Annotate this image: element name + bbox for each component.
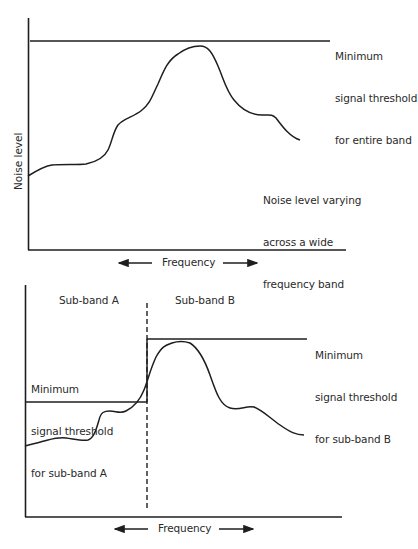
top-y-axis-label: Noise level — [12, 133, 24, 190]
bottom-x-axis-label: Frequency — [158, 521, 211, 535]
label-line: for sub-band A — [31, 466, 113, 480]
label-line: signal threshold — [31, 424, 113, 438]
label-line: signal threshold — [315, 390, 397, 404]
label-line: across a wide — [263, 235, 361, 249]
top-x-axis-label: Frequency — [162, 255, 215, 269]
subband-a-label: Sub-band A — [59, 293, 119, 307]
label-line: Minimum — [31, 382, 113, 396]
label-line: Noise level varying — [263, 193, 361, 207]
label-line: Minimum — [335, 49, 417, 63]
label-line: for entire band — [335, 133, 417, 147]
label-line: for sub-band B — [315, 432, 397, 446]
label-line: Minimum — [315, 348, 397, 362]
subband-b-threshold-label: Minimum signal threshold for sub-band B — [315, 320, 397, 460]
top-threshold-label: Minimum signal threshold for entire band — [335, 21, 417, 161]
top-noise-curve — [28, 46, 300, 176]
label-line: frequency band — [263, 277, 361, 291]
top-curve-label: Noise level varying across a wide freque… — [263, 165, 361, 305]
label-line: signal threshold — [335, 91, 417, 105]
subband-a-threshold-label: Minimum signal threshold for sub-band A — [31, 354, 113, 494]
subband-b-label: Sub-band B — [175, 293, 235, 307]
